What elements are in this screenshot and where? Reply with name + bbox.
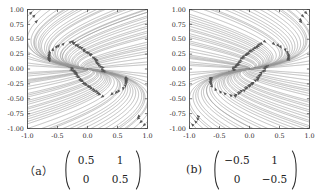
caption-row: （a） 0.5 1 0 0.5 xyxy=(0,145,324,194)
svg-text:0.25: 0.25 xyxy=(172,50,186,58)
matrix-a-cell-1-1: 0.5 xyxy=(109,173,131,185)
svg-text:1.0: 1.0 xyxy=(304,132,314,140)
matrix-a-cell-0-1: 1 xyxy=(109,154,131,166)
svg-text:-0.5: -0.5 xyxy=(213,132,225,140)
svg-text:0.00: 0.00 xyxy=(10,65,24,73)
svg-text:-1.00: -1.00 xyxy=(170,125,186,133)
matrix-b-cell-1-0: 0 xyxy=(224,173,250,185)
svg-text:0.0: 0.0 xyxy=(82,132,92,140)
caption-b: (b) −0.5 1 0 −0.5 xyxy=(186,145,324,194)
matrix-a-cell-0-0: 0.5 xyxy=(75,154,97,166)
svg-text:-0.75: -0.75 xyxy=(170,110,186,118)
svg-text:1.00: 1.00 xyxy=(172,6,186,14)
svg-text:1.00: 1.00 xyxy=(10,6,24,14)
svg-text:0.00: 0.00 xyxy=(172,65,186,73)
svg-text:-0.25: -0.25 xyxy=(8,80,24,88)
right-paren-icon xyxy=(291,150,300,190)
svg-text:-0.75: -0.75 xyxy=(8,110,24,118)
matrix-a: 0.5 1 0 0.5 xyxy=(62,150,144,190)
svg-text:-1.0: -1.0 xyxy=(183,132,195,140)
svg-text:-0.25: -0.25 xyxy=(170,80,186,88)
matrix-b: −0.5 1 0 −0.5 xyxy=(211,150,300,190)
svg-text:0.25: 0.25 xyxy=(10,50,24,58)
svg-text:0.75: 0.75 xyxy=(172,21,186,29)
caption-a-label: （a） xyxy=(24,162,53,178)
svg-text:0.75: 0.75 xyxy=(10,21,24,29)
left-paren-icon xyxy=(211,150,220,190)
matrix-a-cell-1-0: 0 xyxy=(75,173,97,185)
svg-text:0.50: 0.50 xyxy=(10,35,24,43)
panel-b: -1.0-0.50.00.51.0-1.00-0.75-0.50-0.250.0… xyxy=(162,0,324,145)
svg-text:-1.0: -1.0 xyxy=(21,132,33,140)
matrix-b-cell-0-1: 1 xyxy=(262,154,288,166)
svg-text:-0.5: -0.5 xyxy=(51,132,63,140)
caption-a: （a） 0.5 1 0 0.5 xyxy=(24,145,164,194)
streamplot-a: -1.0-0.50.00.51.0-1.00-0.75-0.50-0.250.0… xyxy=(0,0,162,145)
svg-text:-1.00: -1.00 xyxy=(8,125,24,133)
matrix-b-grid: −0.5 1 0 −0.5 xyxy=(220,154,291,185)
matrix-a-grid: 0.5 1 0 0.5 xyxy=(71,154,135,185)
svg-text:-0.50: -0.50 xyxy=(170,95,186,103)
caption-b-label: (b) xyxy=(186,163,202,176)
svg-text:-0.50: -0.50 xyxy=(8,95,24,103)
figure-phase-portraits: -1.0-0.50.00.51.0-1.00-0.75-0.50-0.250.0… xyxy=(0,0,324,194)
panel-a: -1.0-0.50.00.51.0-1.00-0.75-0.50-0.250.0… xyxy=(0,0,162,145)
svg-text:1.0: 1.0 xyxy=(142,132,152,140)
matrix-b-cell-1-1: −0.5 xyxy=(262,173,288,185)
streamplot-b: -1.0-0.50.00.51.0-1.00-0.75-0.50-0.250.0… xyxy=(162,0,324,145)
svg-text:0.5: 0.5 xyxy=(112,132,122,140)
svg-text:0.50: 0.50 xyxy=(172,35,186,43)
left-paren-icon xyxy=(62,150,71,190)
right-paren-icon xyxy=(135,150,144,190)
svg-text:0.5: 0.5 xyxy=(274,132,284,140)
matrix-b-cell-0-0: −0.5 xyxy=(224,154,250,166)
svg-text:0.0: 0.0 xyxy=(244,132,254,140)
